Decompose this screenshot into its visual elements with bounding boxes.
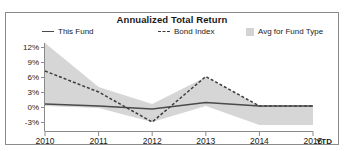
legend-label-bond-index: Bond Index <box>174 27 214 36</box>
dashed-line-swatch-icon <box>158 31 170 32</box>
x-axis-tick-label: 2014 <box>250 136 269 145</box>
x-axis-tick-labels: 201020112012201320142015 <box>36 136 323 145</box>
chart-legend: This Fund Bond Index Avg for Fund Type <box>6 25 338 38</box>
legend-item-this-fund: This Fund <box>42 25 94 38</box>
x-axis-tick-marks <box>45 132 313 137</box>
legend-item-bond-index: Bond Index <box>158 25 214 38</box>
y-axis-tick-label: 12% <box>23 43 39 52</box>
chart-title: Annualized Total Return <box>6 14 338 25</box>
avg-for-fund-type-band <box>45 43 313 125</box>
y-axis-tick-label: 0% <box>27 103 39 112</box>
x-axis-tick-label: 2013 <box>196 136 215 145</box>
legend-item-avg-for-fund-type: Avg for Fund Type <box>246 25 323 38</box>
y-axis-tick-label: -3% <box>25 118 39 127</box>
y-axis-tick-labels: 12%9%6%3%0%-3% <box>23 43 39 127</box>
plot-area: 12%9%6%3%0%-3% 201020112012201320142015 … <box>6 39 338 145</box>
y-axis-tick-label: 9% <box>27 58 39 67</box>
y-axis-tick-label: 3% <box>27 88 39 97</box>
x-axis-tick-label: 2011 <box>89 136 108 145</box>
chart-svg: 12%9%6%3%0%-3% 201020112012201320142015 … <box>6 39 338 145</box>
solid-line-swatch-icon <box>42 31 54 32</box>
filled-square-swatch-icon <box>246 28 254 36</box>
x-axis-tick-label: 2010 <box>36 136 55 145</box>
legend-label-this-fund: This Fund <box>58 27 94 36</box>
x-axis-ytd-label: YTD <box>316 137 332 145</box>
y-axis-tick-label: 6% <box>27 73 39 82</box>
x-axis-tick-label: 2012 <box>143 136 162 145</box>
annualized-total-return-chart-card: Annualized Total Return This Fund Bond I… <box>5 12 339 145</box>
legend-label-avg-for-fund-type: Avg for Fund Type <box>258 27 323 36</box>
